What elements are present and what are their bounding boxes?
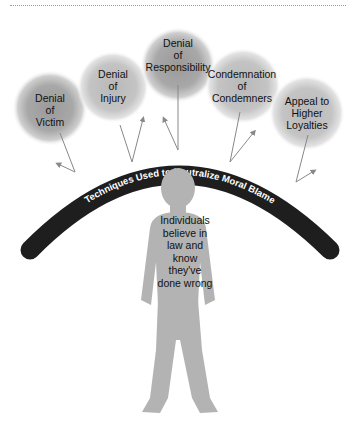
label-denial-of-injury: Denial of Injury xyxy=(98,68,128,104)
label-denial-of-responsibility: Denial of Responsibility xyxy=(146,37,211,73)
person-caption: Individuals believe in law and know they… xyxy=(158,214,213,289)
label-condemnation-of-condemners: Condemnation of Condemners xyxy=(208,68,276,104)
label-denial-of-victim: Denial of Victim xyxy=(35,92,65,128)
label-appeal-to-higher-loyalties: Appeal to Higher Loyalties xyxy=(285,95,329,131)
person-silhouette xyxy=(141,168,218,413)
